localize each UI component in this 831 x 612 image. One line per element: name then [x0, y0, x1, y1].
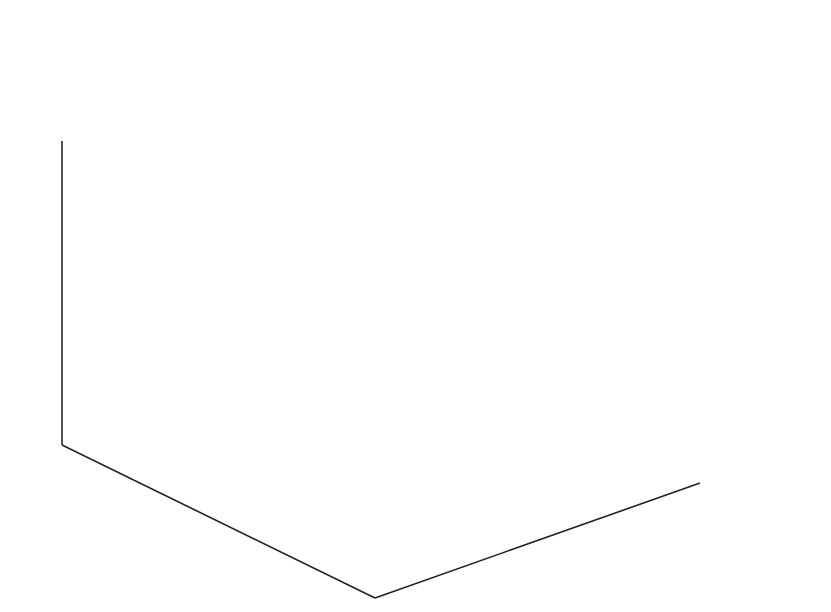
ribbon-plot [0, 0, 831, 612]
axes [62, 141, 700, 598]
